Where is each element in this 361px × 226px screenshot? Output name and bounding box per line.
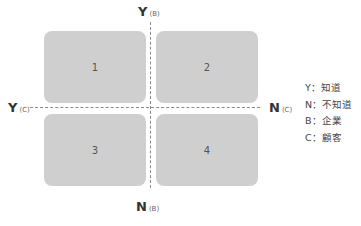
axis-bottom-label: N(B) <box>136 200 159 213</box>
horizontal-dashed-axis <box>30 107 260 108</box>
quadrant-3: 3 <box>44 114 146 186</box>
legend: Y：知道 N：不知道 B：企業 C：顧客 <box>305 80 352 146</box>
quadrant-2: 2 <box>156 31 258 103</box>
axis-left-sub: (C) <box>19 106 29 114</box>
axis-top-sub: (B) <box>149 10 159 18</box>
legend-item-b: B：企業 <box>305 113 352 130</box>
legend-item-y: Y：知道 <box>305 80 352 97</box>
vertical-dashed-axis <box>150 22 151 188</box>
quadrant-3-label: 3 <box>92 145 98 156</box>
quadrant-1-label: 1 <box>92 62 98 73</box>
axis-bottom-sub: (B) <box>149 205 159 213</box>
quadrant-1: 1 <box>44 31 146 103</box>
axis-top-label: Y(B) <box>138 5 160 18</box>
axis-right-letter: N <box>269 100 280 115</box>
axis-right-sub: (C) <box>282 106 292 114</box>
axis-top-letter: Y <box>138 4 147 19</box>
legend-item-n: N：不知道 <box>305 97 352 114</box>
quadrant-4: 4 <box>156 114 258 186</box>
axis-bottom-letter: N <box>136 199 147 214</box>
axis-left-letter: Y <box>8 100 17 115</box>
quadrant-2-label: 2 <box>204 62 210 73</box>
axis-right-label: N(C) <box>269 101 292 114</box>
legend-item-c: C：顧客 <box>305 130 352 147</box>
quadrant-4-label: 4 <box>204 145 210 156</box>
axis-left-label: Y(C) <box>8 101 30 114</box>
